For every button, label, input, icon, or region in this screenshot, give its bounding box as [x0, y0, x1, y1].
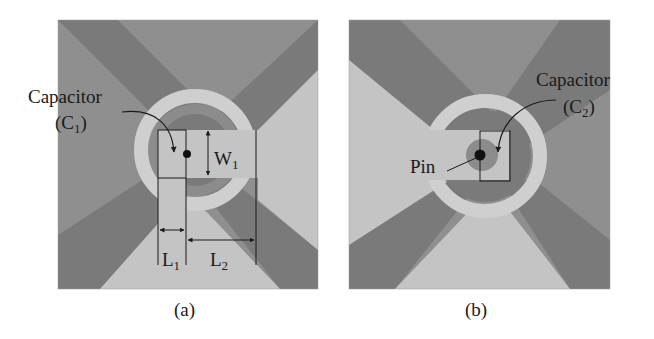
capacitor-c1-label: Capacitor — [28, 86, 103, 107]
caption-b: (b) — [465, 299, 487, 321]
capacitor-c2-symbol: (C2) — [563, 96, 595, 120]
panel-b: Capacitor (C2) Pin (b) — [349, 20, 611, 321]
figure: Capacitor (C1) W1 L1 L2 (a) Capacitor (C… — [0, 0, 654, 339]
pin-dot-a — [183, 150, 191, 158]
panel-a: Capacitor (C1) W1 L1 L2 (a) — [28, 20, 318, 321]
capacitor-c2-label: Capacitor — [536, 69, 611, 90]
capacitor-c1-symbol: (C1) — [55, 112, 87, 136]
pin-label: Pin — [410, 156, 436, 177]
pin-dot-b — [475, 150, 486, 161]
caption-a: (a) — [174, 299, 195, 321]
